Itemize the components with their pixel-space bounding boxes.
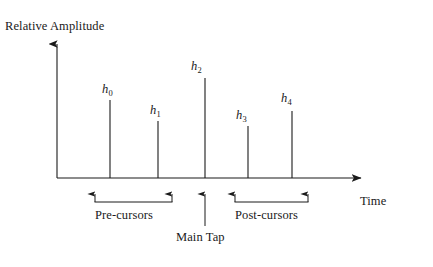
post-cursors-label: Post-cursors <box>235 209 298 222</box>
x-axis-label: Time <box>360 195 386 208</box>
stem-label-h0-subscript: 0 <box>109 88 113 98</box>
stem-label-h0-base: h <box>102 82 108 96</box>
stem-label-h2-base: h <box>191 59 197 73</box>
pre-cursors-bracket <box>95 194 173 202</box>
stem-label-h2: h2 <box>191 60 202 73</box>
stem-label-h1: h1 <box>150 104 161 117</box>
pre-cursors-label: Pre-cursors <box>95 209 153 222</box>
stem-label-h3: h3 <box>236 109 247 122</box>
post-cursors-bracket <box>235 194 309 202</box>
stem-label-h4-base: h <box>281 91 287 105</box>
stem-label-h2-subscript: 2 <box>198 65 202 75</box>
equalizer-tap-diagram: Relative Amplitude Time h0 h1 h2 h3 h4 P… <box>0 0 433 267</box>
stem-label-h3-subscript: 3 <box>243 114 247 124</box>
stem-label-h1-base: h <box>150 103 156 117</box>
y-axis-label: Relative Amplitude <box>5 20 104 33</box>
stem-label-h4: h4 <box>281 92 292 105</box>
stem-label-h1-subscript: 1 <box>157 109 161 119</box>
diagram-canvas <box>0 0 433 267</box>
stem-label-h0: h0 <box>102 83 113 96</box>
stem-label-h3-base: h <box>236 108 242 122</box>
main-tap-label: Main Tap <box>176 231 225 244</box>
stem-label-h4-subscript: 4 <box>288 97 292 107</box>
